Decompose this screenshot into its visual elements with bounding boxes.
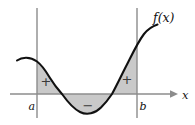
figure-container: f(x) a b x + − + [0, 0, 195, 125]
x-axis-arrow-icon [170, 90, 178, 97]
x-axis-label: x [182, 88, 189, 102]
signed-area-chart: f(x) a b x + − + [0, 0, 195, 125]
curve-label: f(x) [152, 10, 175, 25]
region-sign-left-plus: + [41, 74, 52, 89]
boundary-label-a: a [29, 100, 36, 113]
region-sign-right-plus: + [122, 72, 133, 87]
region-sign-middle-minus: − [83, 98, 94, 113]
boundary-label-b: b [140, 100, 147, 113]
